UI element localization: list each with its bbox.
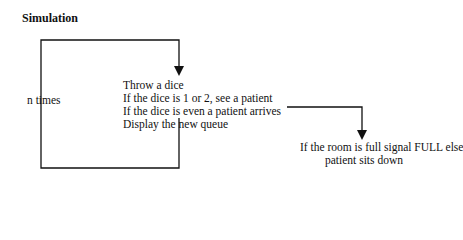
loop-label: n times: [27, 94, 61, 107]
outcome-line: [287, 107, 362, 131]
loop-arrow-icon: [174, 66, 184, 76]
outcome-line2: patient sits down: [325, 154, 403, 167]
step-display-queue: Display the new queue: [123, 118, 228, 131]
step-throw-dice: Throw a dice: [123, 79, 184, 92]
step-patient-arrives: If the dice is even a patient arrives: [123, 105, 281, 118]
outcome-line1: If the room is full signal FULL else: [300, 141, 463, 154]
step-see-patient: If the dice is 1 or 2, see a patient: [123, 92, 272, 105]
outcome-arrow-icon: [357, 130, 367, 140]
